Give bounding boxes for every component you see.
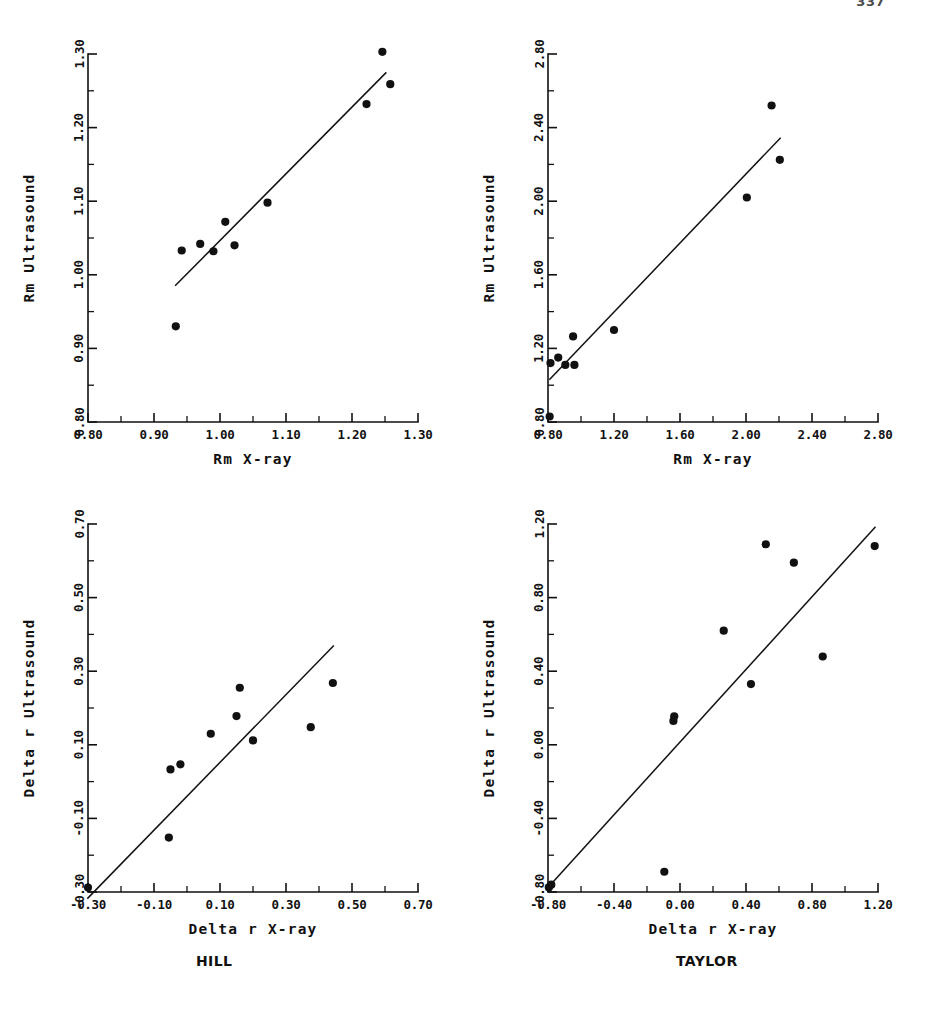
x-tick-label: 2.80	[864, 427, 893, 442]
data-point	[362, 100, 370, 108]
y-tick-label: 0.40	[532, 657, 547, 686]
data-point	[165, 833, 173, 841]
data-point	[209, 247, 217, 255]
caption-hill: HILL	[196, 953, 232, 969]
data-point	[230, 241, 238, 249]
data-point	[221, 218, 229, 226]
axis-lines	[88, 54, 418, 422]
x-axis-title: Rm X-ray	[673, 451, 752, 467]
data-point	[776, 156, 784, 164]
x-tick-label: 0.70	[404, 897, 433, 912]
x-tick-label: 0.00	[666, 897, 695, 912]
y-tick-label: -0.40	[532, 800, 547, 836]
x-tick-label: 0.40	[732, 897, 761, 912]
data-point	[236, 684, 244, 692]
data-point	[84, 883, 92, 891]
x-tick-label: -0.10	[136, 897, 172, 912]
y-tick-label: 0.80	[532, 408, 547, 437]
data-point	[767, 101, 775, 109]
regression-line	[548, 527, 876, 888]
x-tick-label: 0.10	[206, 897, 235, 912]
data-point	[554, 354, 562, 362]
y-axis-title: Delta r Ultrasound	[21, 619, 37, 798]
data-point	[172, 322, 180, 330]
chart-panel-delta-taylor: -0.80-0.400.000.400.801.20-0.80-0.400.00…	[460, 470, 929, 940]
regression-line	[87, 645, 334, 898]
data-point	[569, 332, 577, 340]
data-point	[610, 326, 618, 334]
x-tick-label: -0.40	[596, 897, 632, 912]
y-tick-label: 1.60	[532, 260, 547, 289]
data-point	[670, 712, 678, 720]
x-tick-label: 1.00	[206, 427, 235, 442]
y-axis-ticks: -0.30-0.100.100.300.500.70	[72, 510, 98, 911]
x-tick-label: 1.20	[600, 427, 629, 442]
x-tick-label: 2.40	[798, 427, 827, 442]
y-tick-label: -0.10	[72, 800, 87, 836]
chart-panel-rm-hill: 0.800.901.001.101.201.300.800.901.001.10…	[0, 0, 469, 470]
y-tick-label: 2.80	[532, 40, 547, 69]
y-axis-title: Rm Ultrasound	[481, 173, 497, 302]
y-tick-label: 0.00	[532, 730, 547, 759]
x-tick-label: 1.20	[338, 427, 367, 442]
x-tick-label: 1.30	[404, 427, 433, 442]
data-points	[545, 540, 879, 891]
x-tick-label: 0.90	[140, 427, 169, 442]
x-tick-label: 1.10	[272, 427, 301, 442]
x-tick-label: 0.50	[338, 897, 367, 912]
data-point	[547, 881, 555, 889]
data-points	[546, 101, 784, 420]
axis-lines	[548, 54, 878, 422]
x-tick-label: 2.00	[732, 427, 761, 442]
x-axis-title: Delta r X-ray	[188, 921, 317, 937]
scatter-plot-rm-hill: 0.800.901.001.101.201.300.800.901.001.10…	[0, 0, 469, 470]
y-tick-label: -0.80	[532, 874, 547, 910]
data-point	[747, 680, 755, 688]
y-tick-label: 1.20	[532, 334, 547, 363]
data-point	[178, 246, 186, 254]
data-point	[232, 712, 240, 720]
data-point	[546, 412, 554, 420]
scatter-plot-rm-taylor: 0.801.201.602.002.402.800.801.201.602.00…	[460, 0, 929, 470]
y-tick-label: 0.80	[532, 583, 547, 612]
x-tick-label: 1.20	[864, 897, 893, 912]
y-tick-label: 0.70	[72, 510, 87, 539]
x-axis-ticks: -0.80-0.400.000.400.801.20	[530, 883, 893, 912]
data-point	[307, 723, 315, 731]
x-tick-label: 0.80	[798, 897, 827, 912]
axis-lines	[88, 524, 418, 892]
data-point	[871, 542, 879, 550]
y-tick-label: 1.30	[72, 40, 87, 69]
y-tick-label: 1.00	[72, 260, 87, 289]
data-point	[561, 361, 569, 369]
data-point	[762, 540, 770, 548]
y-tick-label: 0.10	[72, 730, 87, 759]
scatter-plot-delta-hill: -0.30-0.100.100.300.500.70-0.30-0.100.10…	[0, 470, 469, 940]
y-tick-label: 1.20	[532, 510, 547, 539]
data-point	[790, 559, 798, 567]
y-tick-label: 2.40	[532, 113, 547, 142]
y-tick-label: 1.20	[72, 113, 87, 142]
data-point	[176, 760, 184, 768]
data-points	[84, 679, 337, 892]
y-axis-ticks: 0.800.901.001.101.201.30	[72, 40, 98, 437]
data-point	[329, 679, 337, 687]
data-point	[378, 48, 386, 56]
chart-panel-delta-hill: -0.30-0.100.100.300.500.70-0.30-0.100.10…	[0, 470, 469, 940]
y-tick-label: 0.50	[72, 583, 87, 612]
y-axis-title: Delta r Ultrasound	[481, 619, 497, 798]
y-axis-ticks: 0.801.201.602.002.402.80	[532, 40, 558, 437]
y-tick-label: 0.30	[72, 657, 87, 686]
data-point	[570, 361, 578, 369]
y-axis-ticks: -0.80-0.400.000.400.801.20	[532, 510, 558, 911]
scatter-plot-delta-taylor: -0.80-0.400.000.400.801.20-0.80-0.400.00…	[460, 470, 929, 940]
data-point	[660, 868, 668, 876]
x-axis-title: Rm X-ray	[213, 451, 292, 467]
y-axis-title: Rm Ultrasound	[21, 173, 37, 302]
y-tick-label: 0.90	[72, 334, 87, 363]
x-axis-title: Delta r X-ray	[648, 921, 777, 937]
y-tick-label: 1.10	[72, 187, 87, 216]
y-tick-label: 2.00	[532, 187, 547, 216]
data-point	[207, 730, 215, 738]
x-axis-ticks: 0.801.201.602.002.402.80	[534, 413, 893, 442]
